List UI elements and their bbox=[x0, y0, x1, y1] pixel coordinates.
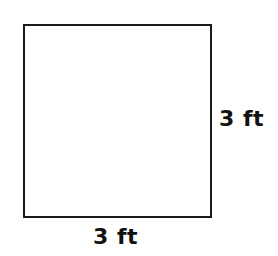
bottom-side-length-label: 3 ft bbox=[93, 226, 138, 248]
right-side-length-label: 3 ft bbox=[219, 108, 264, 130]
square-shape bbox=[23, 24, 212, 218]
